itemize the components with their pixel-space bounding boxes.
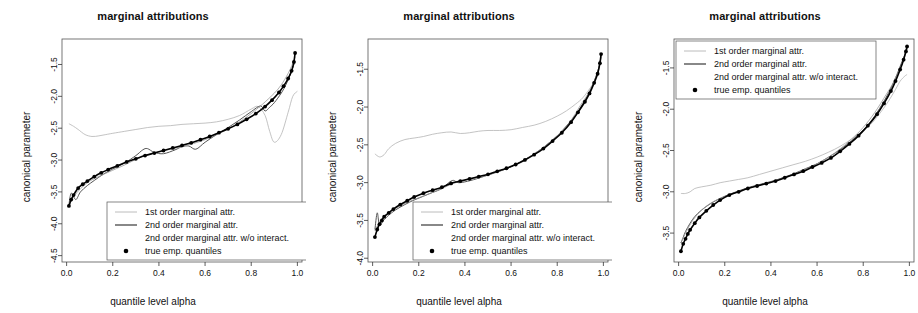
svg-text:-1.5: -1.5	[49, 57, 59, 72]
panel-3: marginal attributions canonical paramete…	[612, 0, 918, 313]
svg-text:0.6: 0.6	[505, 268, 517, 278]
panel-1-plot: 0.00.20.40.60.81.0-1.5-2.0-2.5-3.0-3.5-4…	[0, 0, 306, 313]
svg-text:-2.0: -2.0	[355, 99, 365, 114]
svg-text:1st order marginal attr.: 1st order marginal attr.	[451, 207, 541, 217]
marginal-attributions-figure: marginal attributions canonical paramete…	[0, 0, 918, 313]
svg-text:-4.0: -4.0	[49, 216, 59, 231]
svg-text:0.2: 0.2	[413, 268, 425, 278]
svg-text:-3.0: -3.0	[49, 152, 59, 167]
svg-text:0.2: 0.2	[107, 268, 119, 278]
svg-text:-4.0: -4.0	[355, 251, 365, 266]
svg-text:2nd order marginal attr. w/o i: 2nd order marginal attr. w/o interact.	[451, 233, 595, 243]
svg-text:0.0: 0.0	[367, 268, 379, 278]
svg-text:2nd order marginal attr.: 2nd order marginal attr.	[451, 220, 544, 230]
svg-text:true emp. quantiles: true emp. quantiles	[145, 246, 222, 256]
svg-text:-3.5: -3.5	[661, 226, 671, 241]
svg-text:0.8: 0.8	[551, 268, 563, 278]
svg-text:0.8: 0.8	[857, 268, 869, 278]
panel-1: marginal attributions canonical paramete…	[0, 0, 306, 313]
svg-text:-3.5: -3.5	[49, 184, 59, 199]
svg-text:-3.0: -3.0	[355, 175, 365, 190]
svg-text:0.0: 0.0	[673, 268, 685, 278]
svg-text:-1.5: -1.5	[661, 60, 671, 75]
svg-text:true emp. quantiles: true emp. quantiles	[451, 246, 528, 256]
svg-text:-3.0: -3.0	[661, 184, 671, 199]
panel-3-xlabel: quantile level alpha	[612, 296, 918, 307]
svg-text:-3.5: -3.5	[355, 213, 365, 228]
svg-text:1.0: 1.0	[291, 268, 303, 278]
svg-text:2nd order marginal attr.: 2nd order marginal attr.	[145, 220, 238, 230]
svg-text:1.0: 1.0	[597, 268, 609, 278]
svg-text:-2.0: -2.0	[661, 102, 671, 117]
svg-text:0.6: 0.6	[199, 268, 211, 278]
svg-text:-1.5: -1.5	[355, 62, 365, 77]
panel-2-plot: 0.00.20.40.60.81.0-1.5-2.0-2.5-3.0-3.5-4…	[306, 0, 612, 313]
panel-2-xlabel: quantile level alpha	[306, 296, 612, 307]
svg-text:0.4: 0.4	[153, 268, 165, 278]
svg-text:0.2: 0.2	[719, 268, 731, 278]
svg-text:-2.5: -2.5	[355, 137, 365, 152]
panel-2: marginal attributions canonical paramete…	[306, 0, 612, 313]
svg-text:0.0: 0.0	[61, 268, 73, 278]
svg-text:0.4: 0.4	[765, 268, 777, 278]
svg-text:0.8: 0.8	[245, 268, 257, 278]
svg-text:0.6: 0.6	[811, 268, 823, 278]
svg-text:-2.0: -2.0	[49, 89, 59, 104]
svg-text:1st order marginal attr.: 1st order marginal attr.	[714, 46, 804, 56]
svg-text:0.4: 0.4	[459, 268, 471, 278]
svg-text:1st order marginal attr.: 1st order marginal attr.	[145, 207, 235, 217]
svg-text:true emp. quantiles: true emp. quantiles	[714, 85, 791, 95]
svg-text:-2.5: -2.5	[49, 121, 59, 136]
svg-text:2nd order marginal attr. w/o i: 2nd order marginal attr. w/o interact.	[145, 233, 289, 243]
panel-1-xlabel: quantile level alpha	[0, 296, 306, 307]
svg-text:2nd order marginal attr. w/o i: 2nd order marginal attr. w/o interact.	[714, 72, 858, 82]
svg-text:-4.5: -4.5	[49, 248, 59, 263]
svg-text:-2.5: -2.5	[661, 143, 671, 158]
svg-text:2nd order marginal attr.: 2nd order marginal attr.	[714, 59, 807, 69]
panel-3-plot: 0.00.20.40.60.81.0-1.5-2.0-2.5-3.0-3.51s…	[612, 0, 918, 313]
svg-text:1.0: 1.0	[903, 268, 915, 278]
